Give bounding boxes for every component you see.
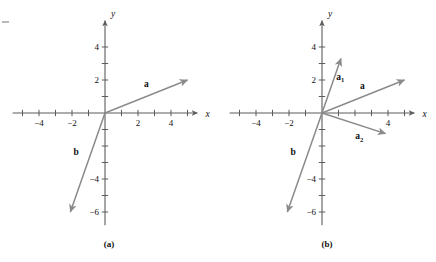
x-axis-tick-label: 4 bbox=[386, 118, 391, 128]
y-axis-tick-label: 4 bbox=[95, 42, 100, 52]
x-axis-tick-label: −2 bbox=[67, 118, 77, 128]
x-axis-tick-label: −4 bbox=[251, 118, 261, 128]
x-axis-tick-label: 4 bbox=[169, 118, 174, 128]
x-axis-tick-label: 2 bbox=[136, 118, 141, 128]
panel-b: −4−2442−4−6xyaa1a2b (b) bbox=[218, 0, 436, 262]
vector-a1 bbox=[322, 59, 341, 113]
y-axis-label: y bbox=[327, 9, 333, 19]
coordinate-plot-b: −4−2442−4−6xyaa1a2b bbox=[218, 0, 436, 262]
vector-label-a: a bbox=[144, 79, 149, 89]
y-axis-tick-label: 2 bbox=[95, 75, 100, 85]
vector-label-a2: a2 bbox=[355, 131, 363, 142]
vector-label-a: a bbox=[360, 81, 365, 91]
vector-figure: −4−22442−4−6xyab (a) −4−2442−4−6xyaa1a2b… bbox=[0, 0, 436, 262]
y-axis-label: y bbox=[110, 9, 116, 19]
vector-b bbox=[287, 113, 322, 212]
vector-a2 bbox=[322, 113, 386, 134]
x-axis-tick-label: −2 bbox=[284, 118, 294, 128]
x-axis-label: x bbox=[421, 109, 427, 119]
vector-label-b: b bbox=[73, 147, 78, 157]
y-axis-tick-label: −6 bbox=[89, 207, 99, 217]
coordinate-plot-a: −4−22442−4−6xyab bbox=[0, 0, 218, 262]
vector-label-b: b bbox=[290, 147, 295, 157]
panel-a-caption: (a) bbox=[0, 239, 218, 249]
y-axis-tick-label: −4 bbox=[89, 174, 99, 184]
panel-a: −4−22442−4−6xyab (a) bbox=[0, 0, 218, 262]
x-axis-tick-label: −4 bbox=[34, 118, 44, 128]
vector-b bbox=[70, 113, 105, 212]
panel-b-caption: (b) bbox=[218, 239, 436, 249]
y-axis-tick-label: −4 bbox=[306, 174, 316, 184]
y-axis-tick-label: 2 bbox=[312, 75, 317, 85]
y-axis-tick-label: −6 bbox=[306, 207, 316, 217]
x-axis-label: x bbox=[204, 109, 210, 119]
y-axis-tick-label: 4 bbox=[312, 42, 317, 52]
vector-label-a1: a1 bbox=[336, 72, 344, 83]
